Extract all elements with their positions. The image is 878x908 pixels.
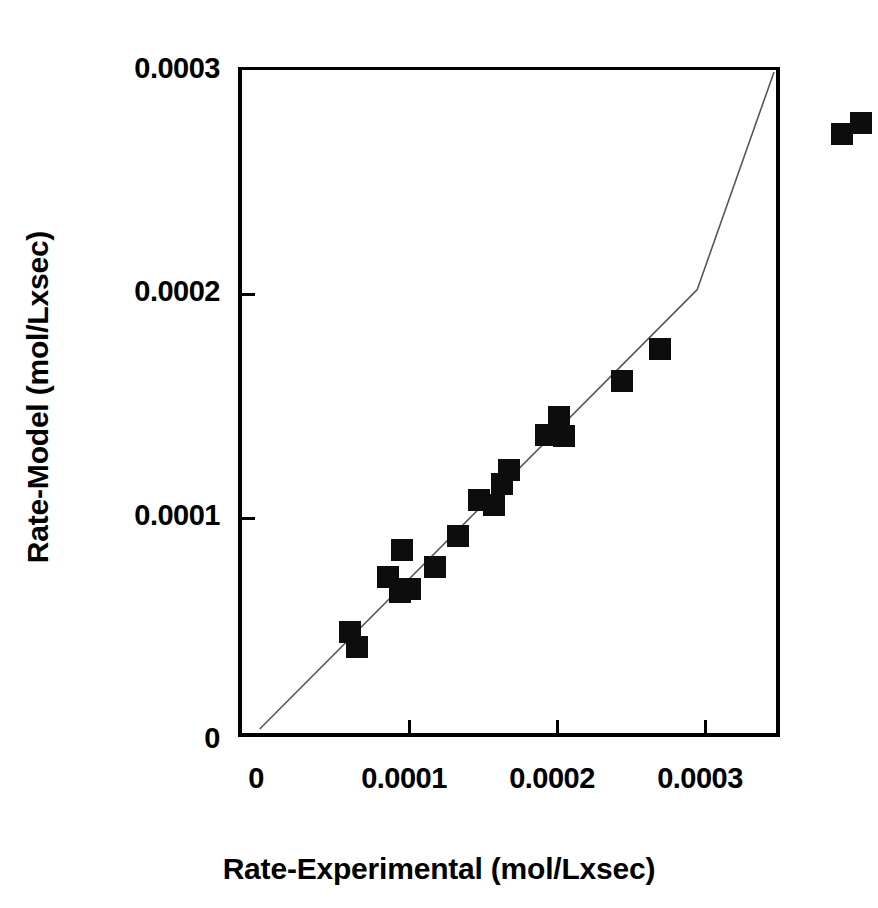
scatter-layer	[242, 70, 776, 733]
data-point-marker	[346, 636, 368, 658]
data-point-marker	[649, 338, 671, 360]
parity-plot-figure: 0 0.0001 0.0002 0.0003 0 0.0001 0.0002 0…	[0, 0, 878, 908]
data-point-marker	[611, 370, 633, 392]
data-point-marker	[447, 525, 469, 547]
data-point-marker	[498, 459, 520, 481]
data-point-marker	[553, 425, 575, 447]
x-tick-label-0: 0	[196, 762, 316, 795]
y-tick-label-0: 0	[30, 722, 220, 755]
y-tick-label-2: 0.0002	[30, 275, 220, 308]
plot-area	[238, 67, 780, 737]
data-point-marker	[483, 494, 505, 516]
x-tick-label-3: 0.0003	[640, 762, 760, 795]
y-tick-label-3: 0.0003	[30, 52, 220, 85]
y-axis-title: Rate-Model (mol/Lxsec)	[21, 137, 55, 657]
data-point-marker	[391, 539, 413, 561]
x-axis-title: Rate-Experimental (mol/Lxsec)	[0, 852, 878, 886]
y-tick-label-1: 0.0001	[30, 499, 220, 532]
data-point-marker	[850, 112, 872, 134]
x-tick-label-2: 0.0002	[492, 762, 612, 795]
data-point-marker	[424, 556, 446, 578]
x-tick-label-1: 0.0001	[344, 762, 464, 795]
data-point-marker	[399, 578, 421, 600]
